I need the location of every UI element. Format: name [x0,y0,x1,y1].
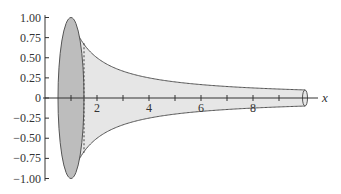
svg-text:−0.25: −0.25 [13,111,41,125]
svg-text:−1.00: −1.00 [13,172,41,186]
svg-text:0: 0 [35,91,41,105]
svg-text:0.25: 0.25 [20,71,41,85]
svg-text:2: 2 [94,101,100,115]
gabriels-horn-figure: 24681.000.750.500.250−0.25−0.50−0.75−1.0… [0,0,341,194]
svg-text:6: 6 [198,101,204,115]
axes: 24681.000.750.500.250−0.25−0.50−0.75−1.0… [13,11,318,186]
svg-text:0.50: 0.50 [20,51,41,65]
svg-text:4: 4 [146,101,152,115]
svg-text:1.00: 1.00 [20,11,41,25]
svg-text:−0.50: −0.50 [13,131,41,145]
svg-text:8: 8 [250,101,256,115]
x-axis-label: x [321,90,328,105]
svg-text:−0.75: −0.75 [13,151,41,165]
svg-text:0.75: 0.75 [20,31,41,45]
